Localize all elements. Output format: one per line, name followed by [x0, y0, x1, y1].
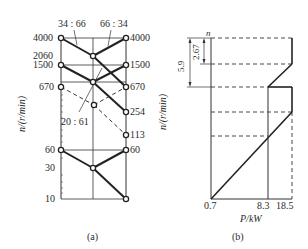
tick-right-4000: 4000 — [130, 33, 150, 43]
axis-label-a: n/(r/min) — [16, 96, 27, 132]
caption-b: (b) — [232, 232, 244, 242]
x-tick-18-5: 18.5 — [276, 201, 294, 211]
x-tick-8-3: 8.3 — [257, 201, 270, 211]
tick-right-254: 254 — [130, 107, 145, 117]
x-tick-0-7: 0.7 — [204, 201, 217, 211]
tick-right-113: 113 — [130, 130, 145, 140]
tick-right-60: 60 — [130, 145, 140, 155]
ratio-label-34-66: 34 : 66 — [58, 19, 86, 29]
caption-a: (a) — [87, 232, 98, 242]
power-diagram-b — [187, 38, 292, 199]
tick-left-60: 60 — [45, 145, 55, 155]
axis-label-b: n/(r/min) — [157, 94, 168, 130]
dim-label-2-67: 2.67 — [191, 44, 201, 60]
n-label: n — [206, 28, 211, 38]
tick-left-1500: 1500 — [33, 60, 53, 70]
tick-left-30: 30 — [45, 163, 55, 173]
tick-left-10: 10 — [45, 194, 55, 204]
tick-right-670: 670 — [130, 82, 145, 92]
tick-left-4000: 4000 — [33, 33, 53, 43]
tick-left-670: 670 — [39, 82, 54, 92]
tick-right-1500: 1500 — [130, 60, 150, 70]
dim-label-5-9: 5.9 — [176, 61, 186, 72]
ratio-label-20-61: 20 : 61 — [61, 117, 89, 127]
ratio-label-66-34: 66 : 34 — [100, 19, 128, 29]
x-axis-label: P/kW — [240, 214, 262, 224]
